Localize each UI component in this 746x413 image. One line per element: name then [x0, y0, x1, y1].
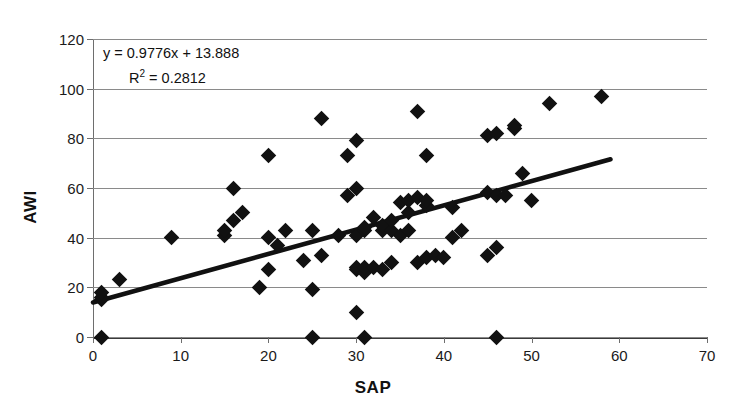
gridline-y-0: [93, 337, 707, 338]
x-tick-label-40: 40: [436, 347, 453, 364]
x-tick-10: [181, 337, 182, 343]
x-tick-50: [532, 337, 533, 343]
x-tick-70: [707, 337, 708, 343]
x-axis-label: SAP: [0, 378, 746, 398]
regression-annotation: y = 0.9776x + 13.888 R2 = 0.2812: [103, 42, 239, 91]
x-tick-label-0: 0: [89, 347, 97, 364]
scatter-chart: 020406080100120 010203040506070 AWI SAP …: [0, 0, 746, 413]
x-tick-label-20: 20: [260, 347, 277, 364]
r-squared-symbol: R: [129, 70, 139, 86]
y-tick-label-60: 60: [67, 180, 84, 197]
y-tick-label-40: 40: [67, 229, 84, 246]
x-tick-20: [268, 337, 269, 343]
y-tick-label-20: 20: [67, 279, 84, 296]
r-squared-annotation: R2 = 0.2812: [129, 66, 239, 91]
x-tick-60: [619, 337, 620, 343]
x-tick-label-30: 30: [348, 347, 365, 364]
y-tick-label-0: 0: [76, 329, 84, 346]
y-tick-label-120: 120: [59, 31, 84, 48]
regression-equation: y = 0.9776x + 13.888: [103, 42, 239, 66]
x-tick-label-70: 70: [699, 347, 716, 364]
y-tick-label-100: 100: [59, 80, 84, 97]
y-axis-label: AWI: [21, 190, 41, 224]
y-tick-label-80: 80: [67, 130, 84, 147]
x-tick-40: [444, 337, 445, 343]
x-tick-label-10: 10: [172, 347, 189, 364]
x-tick-label-60: 60: [611, 347, 628, 364]
x-tick-label-50: 50: [523, 347, 540, 364]
r-squared-value: = 0.2812: [145, 70, 206, 86]
